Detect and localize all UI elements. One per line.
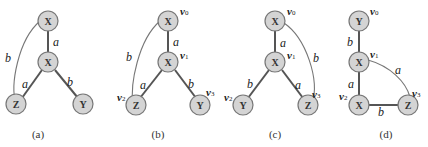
edge-label: a	[395, 63, 401, 77]
edge-label: a	[173, 35, 179, 49]
edge-label: a	[295, 78, 301, 92]
vertex-subscript: 0	[375, 9, 379, 17]
vertex-label: v0	[287, 5, 296, 17]
vertex-label: v1	[287, 49, 296, 61]
edge-label: b	[67, 75, 73, 89]
vertex-subscript: 2	[122, 95, 126, 103]
graph-c: a b b a X X Y Z v0 v1 v2 v3 (c)	[224, 5, 321, 141]
vertex-subscript: 2	[229, 95, 233, 103]
node-label: Y	[355, 16, 363, 27]
vertex-label: v2	[224, 91, 233, 103]
vertex-subscript: 3	[211, 90, 215, 98]
graph-a: b a a b X X Z Y (a)	[5, 11, 93, 141]
vertex-subscript: 3	[417, 91, 421, 99]
edge-label: a	[22, 77, 28, 91]
vertex-subscript: 0	[292, 9, 296, 17]
vertex-subscript: 2	[344, 94, 348, 102]
vertex-label: v2	[117, 91, 126, 103]
node-label: X	[271, 57, 279, 68]
vertex-subscript: 1	[185, 53, 189, 61]
node-label: X	[355, 57, 363, 68]
graph-d: b a a b Y X X Z v0 v1 v2 v3 (d)	[339, 5, 421, 141]
edge-label: a	[280, 36, 286, 50]
node-label: Y	[239, 100, 247, 111]
node-label: X	[44, 57, 52, 68]
edge-label: a	[140, 78, 146, 92]
node-label: Z	[405, 100, 412, 111]
vertex-subscript: 1	[292, 53, 296, 61]
graph-figure: b a a b X X Z Y (a) b a a b X X Z Y v0 v…	[0, 0, 428, 147]
node-label: Z	[13, 99, 20, 110]
edge-label: b	[247, 77, 253, 91]
caption-a: (a)	[32, 128, 45, 141]
vertex-label: v3	[412, 87, 421, 99]
vertex-label: v1	[180, 49, 189, 61]
node-label: X	[355, 100, 363, 111]
edge-label: b	[188, 77, 194, 91]
node-label: X	[271, 16, 279, 27]
edge-label: b	[126, 50, 132, 64]
vertex-subscript: 1	[375, 52, 379, 60]
edge-label: b	[378, 105, 384, 119]
node-label: Y	[196, 100, 204, 111]
edge-label: b	[5, 51, 11, 65]
node-label: Z	[133, 100, 140, 111]
vertex-label: v0	[370, 5, 379, 17]
vertex-label: v0	[180, 5, 189, 17]
caption-c: (c)	[269, 128, 282, 141]
node-label: X	[44, 16, 52, 27]
vertex-label: v3	[312, 88, 321, 100]
vertex-label: v2	[339, 90, 348, 102]
node-label: X	[164, 16, 172, 27]
vertex-subscript: 0	[185, 9, 189, 17]
edge-label: b	[347, 35, 353, 49]
edge-label: b	[313, 51, 319, 65]
graph-b: b a a b X X Z Y v0 v1 v2 v3 (b)	[117, 5, 215, 141]
caption-b: (b)	[152, 128, 165, 141]
node-label: Z	[305, 100, 312, 111]
vertex-subscript: 3	[317, 92, 321, 100]
vertex-label: v1	[370, 48, 379, 60]
edge-label: a	[53, 35, 59, 49]
caption-d: (d)	[380, 128, 393, 141]
node-label: Y	[79, 99, 87, 110]
vertex-label: v3	[206, 86, 215, 98]
edge-label: a	[348, 77, 354, 91]
edge-d-n1-n3	[368, 60, 410, 97]
node-label: X	[164, 57, 172, 68]
